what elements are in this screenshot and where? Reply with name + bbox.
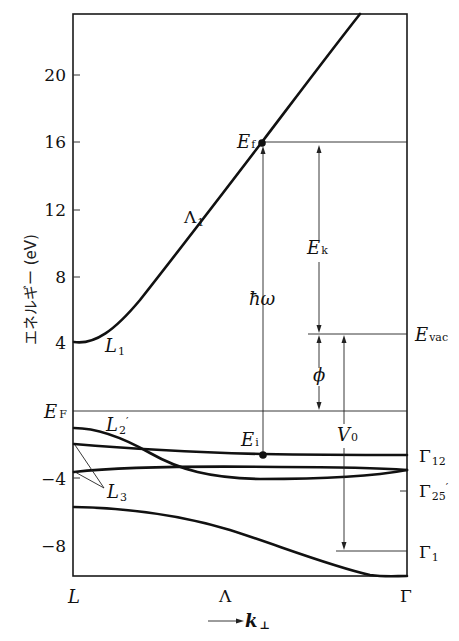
Ek-label: Ek [306,237,328,258]
k-perp-label: k⊥ [245,610,270,632]
y-tick-20: 20 [44,65,66,85]
y-tick-minus-8: −8 [41,536,66,556]
band-L3-lower-gamma25 [74,467,407,472]
Gamma1-label: Γ1 [419,542,439,564]
band-lowest-gamma1 [74,507,407,576]
phi-label: ϕ [313,364,325,385]
Evac-label: Evac [414,324,448,345]
band-lambda1 [74,14,360,342]
fermi-level-label: EF [43,401,67,422]
y-ticks [73,75,80,478]
L3-label: L3 [106,481,127,504]
hbar-omega-label: ħω [249,288,276,309]
y-tick-16: 16 [44,132,66,152]
Lambda1-label: Λ1 [183,207,204,229]
y-axis-label: エネルギー (eV) [22,234,40,345]
y-tick-minus-4: −4 [41,469,66,489]
Gamma12-label: Γ12 [419,446,446,468]
L3-pointer-lower [75,472,104,488]
x-label-L: L [67,586,80,607]
Ei-label: Ei [240,429,259,450]
x-label-Lambda: Λ [218,586,232,606]
L1-label: L1 [104,335,125,358]
L2prime-label: L2′ [105,414,129,437]
band-structure-diagram: 20 16 12 8 4 −4 −8 EF エネルギー (eV) L Λ Γ k… [0,0,459,641]
Ef-label: Ef [236,131,256,152]
initial-state-point [259,451,267,459]
L3-pointer-upper [75,445,104,488]
x-label-Gamma: Γ [400,586,412,606]
y-tick-8: 8 [55,267,66,287]
V0-label: V0 [337,424,358,445]
y-tick-12: 12 [44,200,66,220]
Gamma25prime-label: Γ25′ [419,481,449,503]
final-state-point [258,139,266,147]
y-tick-4: 4 [55,333,66,353]
